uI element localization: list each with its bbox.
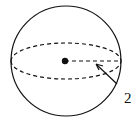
center-dot	[62, 58, 68, 64]
radius-label: 2	[124, 90, 132, 106]
sphere-diagram: 2	[0, 0, 139, 122]
label-arrow-line	[97, 65, 117, 84]
